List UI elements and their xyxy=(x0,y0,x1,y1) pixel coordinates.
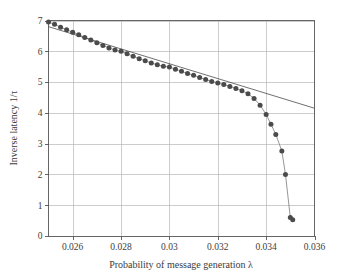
data-point xyxy=(88,37,93,42)
data-point xyxy=(268,122,273,127)
data-point xyxy=(125,51,130,56)
data-point xyxy=(283,172,288,177)
x-tick-label: 0.032 xyxy=(207,242,229,252)
chart-figure: 01234567 0.0260.0280.030.0320.0340.036 P… xyxy=(0,0,338,279)
data-point xyxy=(258,103,263,108)
data-point xyxy=(149,60,154,65)
data-point xyxy=(173,67,178,72)
x-tick-label: 0.028 xyxy=(110,242,132,252)
data-point xyxy=(209,79,214,84)
y-tick-label: 3 xyxy=(38,139,43,149)
data-point xyxy=(191,73,196,78)
scatter-plot: 01234567 0.0260.0280.030.0320.0340.036 P… xyxy=(0,0,338,279)
data-point xyxy=(273,132,278,137)
data-point xyxy=(155,62,160,67)
data-point xyxy=(221,82,226,87)
data-point xyxy=(197,75,202,80)
y-tick-label: 0 xyxy=(38,231,43,241)
data-point xyxy=(264,112,269,117)
data-point xyxy=(131,54,136,59)
data-point xyxy=(167,64,172,69)
y-tick-label: 6 xyxy=(38,47,43,57)
x-axis-title: Probability of message generation λ xyxy=(109,259,253,270)
data-point xyxy=(143,58,148,63)
data-point xyxy=(233,86,238,91)
data-point xyxy=(290,217,295,222)
x-tick-label: 0.026 xyxy=(62,242,84,252)
x-tick-label: 0.036 xyxy=(304,242,326,252)
data-point xyxy=(119,49,124,54)
data-point xyxy=(215,81,220,86)
data-point xyxy=(227,84,232,89)
data-point xyxy=(137,56,142,61)
y-axis-title: Inverse latency 1/τ xyxy=(8,90,19,165)
y-tick-label: 7 xyxy=(38,16,43,26)
y-tick-label: 4 xyxy=(38,108,43,118)
data-point xyxy=(179,69,184,74)
data-point xyxy=(252,96,257,101)
data-point xyxy=(279,149,284,154)
x-tick-label: 0.03 xyxy=(161,242,178,252)
chart-background xyxy=(0,0,338,279)
y-tick-label: 2 xyxy=(38,170,43,180)
data-point xyxy=(161,64,166,69)
x-tick-label: 0.034 xyxy=(255,242,277,252)
data-point xyxy=(246,91,251,96)
data-point xyxy=(94,40,99,45)
data-point xyxy=(100,43,105,48)
y-tick-label: 5 xyxy=(38,77,43,87)
data-point xyxy=(82,35,87,40)
y-tick-label: 1 xyxy=(38,201,43,211)
data-point xyxy=(46,20,51,25)
data-point xyxy=(58,25,63,30)
data-point xyxy=(64,27,69,32)
data-point xyxy=(70,30,75,35)
data-point xyxy=(185,71,190,76)
data-point xyxy=(239,88,244,93)
data-point xyxy=(106,45,111,50)
data-point xyxy=(52,22,57,27)
data-point xyxy=(203,77,208,82)
data-point xyxy=(113,48,118,53)
data-point xyxy=(76,32,81,37)
